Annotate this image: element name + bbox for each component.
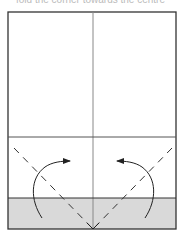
fold-diagram: [0, 0, 181, 236]
shaded-bottom-band: [8, 198, 176, 229]
